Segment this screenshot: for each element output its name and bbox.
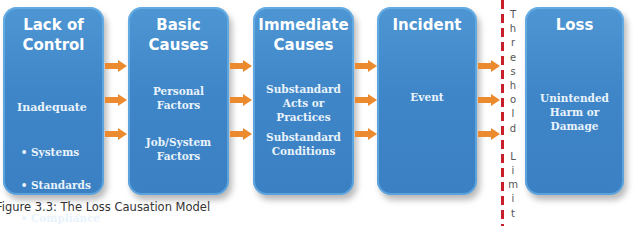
right-arrow-icon	[105, 94, 127, 106]
stage-title: Basic Causes	[128, 15, 229, 55]
stage-title: Lack of Control	[3, 15, 104, 55]
right-arrow-icon	[355, 60, 377, 72]
job-system-factors: Job/System Factors	[128, 135, 229, 163]
bullet-icon: •	[17, 176, 31, 195]
right-arrow-icon	[105, 128, 127, 140]
stage-basic-causes: Basic Causes Personal Factors Job/System…	[128, 7, 229, 195]
threshold-limit-label: T h r e s h o l d L i m i t	[507, 8, 519, 221]
right-arrow-icon	[478, 60, 500, 72]
right-arrow-icon	[230, 128, 252, 140]
list-item: •Systems	[17, 143, 104, 162]
right-arrow-icon	[105, 60, 127, 72]
right-arrow-icon	[478, 94, 500, 106]
right-arrow-icon	[230, 94, 252, 106]
bullet-icon: •	[17, 143, 31, 162]
personal-factors: Personal Factors	[128, 84, 229, 112]
event: Event	[377, 90, 477, 104]
stage-title: Incident	[377, 15, 477, 35]
substandard-acts: Substandard Acts or Practices	[253, 82, 354, 124]
right-arrow-icon	[355, 94, 377, 106]
stage-title: Immediate Causes	[253, 15, 354, 55]
inadequate-heading: Inadequate	[17, 101, 104, 115]
right-arrow-icon	[230, 60, 252, 72]
figure-caption: Figure 3.3: The Loss Causation Model	[0, 200, 210, 214]
list-item: •Standards	[17, 176, 104, 195]
stage-lack-of-control: Lack of Control Inadequate •Systems •Sta…	[3, 7, 104, 195]
unintended-harm: Unintended Harm or Damage	[525, 91, 624, 133]
stage-immediate-causes: Immediate Causes Substandard Acts or Pra…	[253, 7, 354, 195]
stage-incident: Incident Event	[377, 7, 477, 195]
stage-loss: Loss Unintended Harm or Damage	[525, 7, 624, 195]
threshold-limit-line	[501, 0, 504, 226]
right-arrow-icon	[355, 128, 377, 140]
right-arrow-icon	[478, 128, 500, 140]
stage-title: Loss	[525, 15, 624, 35]
substandard-conditions: Substandard Conditions	[253, 130, 354, 158]
